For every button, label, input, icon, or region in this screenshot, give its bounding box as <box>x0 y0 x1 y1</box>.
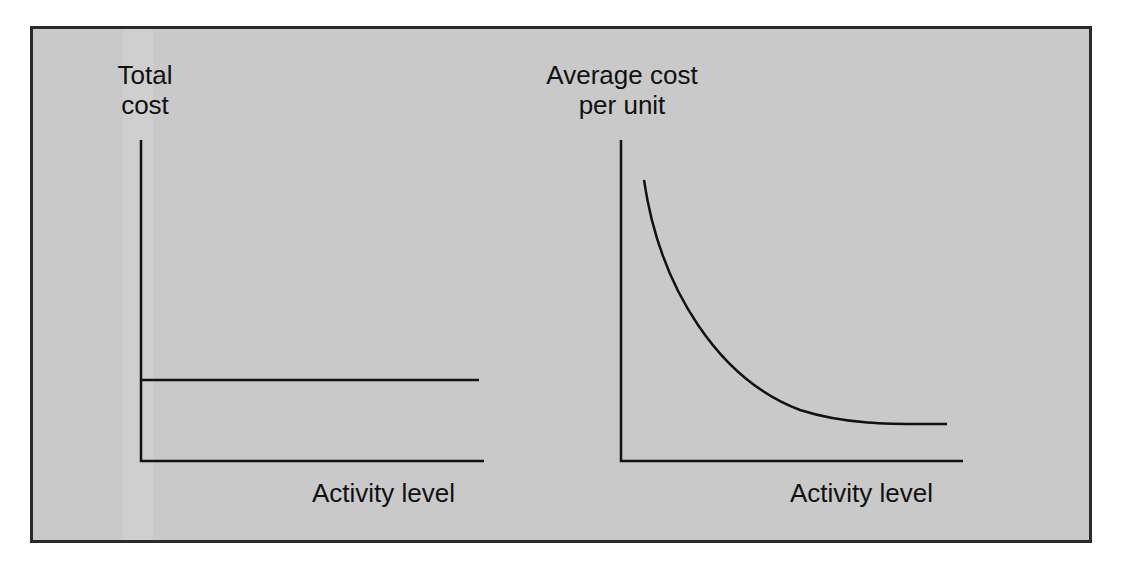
total-cost-panel <box>140 140 484 462</box>
average-cost-panel <box>620 140 963 462</box>
average-cost-x-label: Activity level <box>790 478 933 508</box>
total-cost-x-label: Activity level <box>312 478 455 508</box>
total-cost-y-label: Total cost <box>100 60 190 120</box>
average-cost-curve <box>644 180 947 424</box>
average-cost-y-label: Average cost per unit <box>530 60 714 120</box>
